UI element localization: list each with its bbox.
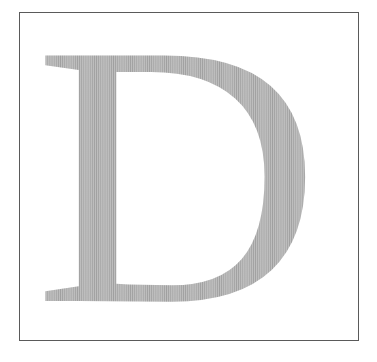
- letter-plate-frame: D: [19, 12, 359, 341]
- halftone-letter-d: D: [34, 0, 321, 362]
- letter-plate-canvas: D: [0, 0, 377, 362]
